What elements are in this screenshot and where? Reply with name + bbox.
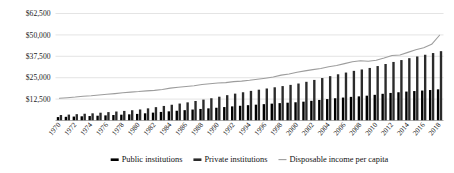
bar-private <box>258 90 260 121</box>
y-axis-tick-labels: $62,500$50,000$37,500$25,000$12,500 <box>26 9 51 104</box>
bar-public <box>223 107 225 120</box>
bar-public <box>286 103 288 121</box>
bar-public <box>326 99 328 120</box>
bar-public <box>176 111 178 121</box>
bar-private <box>115 112 117 121</box>
bar-private <box>210 98 212 120</box>
x-axis-tick-label: 1974 <box>79 121 95 137</box>
bar-public <box>231 106 233 120</box>
x-axis-tick-label: 1988 <box>190 121 206 137</box>
bar-private <box>337 74 339 120</box>
x-axis-tick-label: 1992 <box>221 121 237 137</box>
bar-private <box>147 108 149 120</box>
x-axis-tick-label: 1972 <box>63 121 79 137</box>
bar-public <box>334 98 336 120</box>
x-axis-tick-label: 1980 <box>126 121 142 137</box>
bar-public <box>144 113 146 120</box>
bar-public <box>350 97 352 121</box>
bar-private <box>242 92 244 120</box>
bar-public <box>366 96 368 121</box>
bar-public <box>310 101 312 121</box>
bar-private <box>131 110 133 120</box>
bar-private <box>305 82 307 121</box>
bar-public <box>128 114 130 120</box>
bar-private <box>234 94 236 121</box>
bar-private <box>353 71 355 121</box>
bar-public <box>294 102 296 120</box>
bar-private <box>202 100 204 121</box>
x-axis-tick-label: 1994 <box>237 121 253 137</box>
x-axis-tick-label: 2012 <box>380 121 396 137</box>
bar-public <box>199 109 201 121</box>
bar-public <box>239 106 241 121</box>
bar-private <box>281 86 283 120</box>
legend-label: Public institutions <box>122 155 183 164</box>
x-axis-tick-label: 2010 <box>364 121 380 137</box>
bar-public <box>437 89 439 120</box>
x-axis-tick-label: 1978 <box>110 121 126 137</box>
x-axis-tick-labels: 1970197219741976197819801982198419861988… <box>47 121 443 137</box>
bar-private <box>99 113 101 121</box>
bar-public <box>65 117 67 121</box>
bar-public <box>112 115 114 120</box>
x-axis-tick-label: 2018 <box>427 121 443 137</box>
bar-private <box>194 101 196 121</box>
bar-public <box>381 94 383 121</box>
bar-public <box>413 91 415 120</box>
bar-private <box>313 80 315 121</box>
bar-public <box>374 95 376 121</box>
legend-marker-public <box>111 158 119 161</box>
bar-private <box>171 105 173 121</box>
bar-private <box>60 115 62 120</box>
x-axis-tick-label: 1970 <box>47 121 63 137</box>
bar-private <box>250 91 252 121</box>
bar-public <box>191 110 193 121</box>
x-axis-tick-label: 2016 <box>411 121 427 137</box>
bar-public <box>247 105 249 120</box>
bar-private <box>376 66 378 120</box>
bar-private <box>416 56 418 120</box>
bar-private <box>274 87 276 120</box>
bar-public <box>421 91 423 121</box>
bar-private <box>68 115 70 121</box>
x-axis-tick-label: 2002 <box>301 121 317 137</box>
bar-public <box>88 116 90 120</box>
bar-public <box>271 104 273 121</box>
bar-private <box>289 85 291 121</box>
bar-private <box>218 97 220 121</box>
y-axis-tick-label: $37,500 <box>26 52 51 61</box>
bar-public <box>73 117 75 121</box>
legend-marker-private <box>193 158 201 161</box>
chart-canvas: $62,500$50,000$37,500$25,000$12,500 1970… <box>0 0 454 173</box>
bar-private <box>76 114 78 120</box>
y-axis-tick-label: $25,000 <box>26 73 51 82</box>
x-axis-tick-label: 2014 <box>396 121 412 137</box>
bar-private <box>155 107 157 120</box>
bar-private <box>83 114 85 121</box>
x-axis-tick-label: 1998 <box>269 121 285 137</box>
bar-private <box>163 106 165 121</box>
bar-private <box>91 113 93 120</box>
x-axis-tick-label: 1996 <box>253 121 269 137</box>
bar-private <box>400 60 402 120</box>
chart-legend: Public institutionsPrivate institutionsD… <box>111 155 389 164</box>
bar-private <box>424 55 426 121</box>
legend-label: Private institutions <box>204 155 267 164</box>
legend-label: Disposable income per capita <box>289 155 388 164</box>
x-axis-tick-label: 1982 <box>142 121 158 137</box>
bar-private <box>361 69 363 120</box>
bar-private <box>186 102 188 120</box>
bar-public <box>389 93 391 121</box>
bar-private <box>107 112 109 120</box>
bar-public <box>207 108 209 120</box>
bar-series-private-institutions <box>60 51 442 120</box>
bar-public <box>57 117 59 120</box>
bar-public <box>405 92 407 121</box>
bar-public <box>96 116 98 121</box>
bar-public <box>104 115 106 120</box>
bar-public <box>358 96 360 120</box>
bar-public <box>342 98 344 121</box>
x-axis-tick-label: 2008 <box>348 121 364 137</box>
x-axis-tick-label: 2000 <box>285 121 301 137</box>
bar-public <box>136 114 138 121</box>
